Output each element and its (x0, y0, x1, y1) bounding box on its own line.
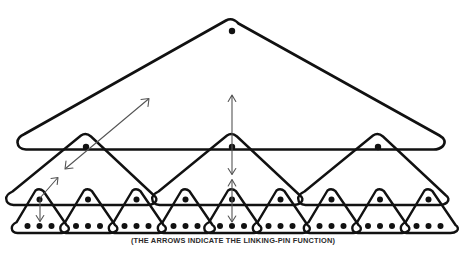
work-group-7-member-dot-2 (329, 223, 335, 229)
work-group-2-supervisor-dot (85, 197, 91, 203)
work-group-1-member-dot-3 (49, 223, 55, 229)
linking-pin-diagram: (THE ARROWS INDICATE THE LINKING-PIN FUN… (0, 0, 466, 255)
work-group-8-member-dot-1 (365, 223, 371, 229)
work-group-5-member-dot-1 (217, 223, 223, 229)
work-group-4-member-dot-1 (171, 223, 177, 229)
work-group-2-member-dot-1 (73, 223, 79, 229)
middle-triangle-center (152, 134, 302, 205)
top-triangle-outline (17, 19, 444, 149)
work-group-1-member-dot-2 (37, 223, 43, 229)
work-group-3-member-dot-3 (146, 223, 152, 229)
work-group-6-member-dot-3 (290, 223, 296, 229)
work-group-3-member-dot-1 (122, 223, 128, 229)
work-group-6-member-dot-2 (278, 223, 284, 229)
work-group-9-member-dot-2 (426, 223, 432, 229)
work-group-2-member-dot-2 (85, 223, 91, 229)
work-group-7-member-dot-3 (341, 223, 347, 229)
top-organization-triangle (17, 19, 444, 149)
work-group-8-supervisor-dot (377, 197, 383, 203)
vertical-linking-arrow-down-left (36, 200, 44, 222)
work-group-8-member-dot-3 (389, 223, 395, 229)
diagonal-linking-arrow-lower-left (40, 178, 58, 199)
diagonal-arrow-lower-left-shaft (40, 178, 58, 198)
work-group-5-member-dot-3 (241, 223, 247, 229)
middle-triangle-center-outline (152, 134, 302, 205)
work-group-4-supervisor-dot (183, 197, 189, 203)
diagonal-linking-arrow-upper-left (65, 99, 149, 170)
work-group-3-member-dot-2 (134, 223, 140, 229)
work-group-6-member-dot-1 (266, 223, 272, 229)
diagonal-arrow-upper-left-shaft (66, 99, 149, 169)
top-executive-dot (229, 28, 235, 34)
work-group-9-supervisor-dot (426, 197, 432, 203)
work-group-4-member-dot-3 (195, 223, 201, 229)
work-group-7-supervisor-dot (329, 197, 335, 203)
diagram-canvas (0, 0, 466, 255)
work-group-2-member-dot-3 (97, 223, 103, 229)
work-group-1-member-dot-1 (25, 223, 31, 229)
work-group-5-member-dot-2 (229, 223, 235, 229)
work-group-7-member-dot-1 (317, 223, 323, 229)
work-group-4-member-dot-2 (183, 223, 189, 229)
work-group-6-supervisor-dot (278, 197, 284, 203)
work-group-8-member-dot-2 (377, 223, 383, 229)
work-group-3-supervisor-dot (134, 197, 140, 203)
work-group-9-member-dot-1 (414, 223, 420, 229)
work-group-9-member-dot-3 (438, 223, 444, 229)
middle-manager-dot-right (375, 144, 381, 150)
figure-caption: (THE ARROWS INDICATE THE LINKING-PIN FUN… (0, 236, 466, 245)
